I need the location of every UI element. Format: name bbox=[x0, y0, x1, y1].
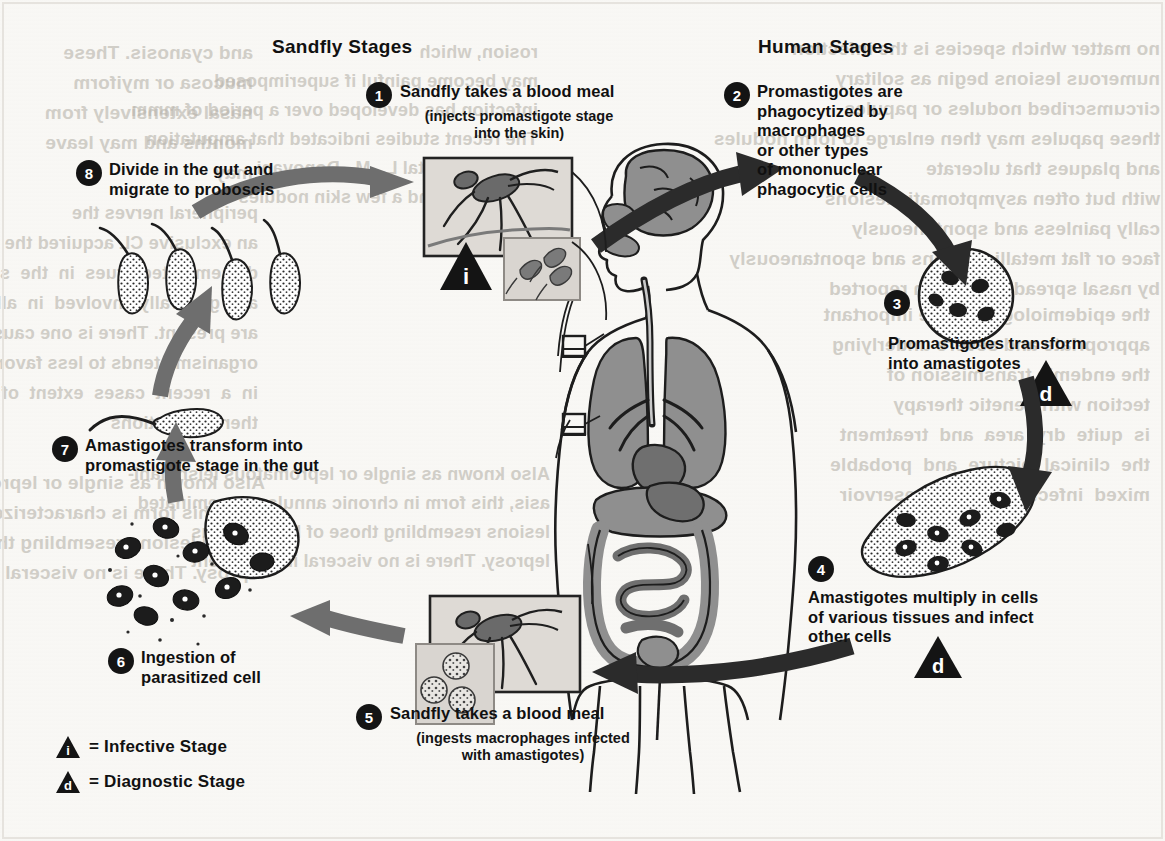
step-5-subtext: (ingests macrophages infected with amast… bbox=[380, 730, 666, 764]
showthrough-text-left-3: Also known as single or lepromatous leis… bbox=[5, 468, 265, 588]
figure-canvas: and cyanosis. These mucosa or myiform na… bbox=[0, 0, 1165, 841]
step-5-text: Sandfly takes a blood meal bbox=[390, 704, 604, 724]
stomach-organ bbox=[647, 483, 704, 522]
infective-stage-marker-1: i bbox=[440, 242, 492, 290]
promastigotes-group-step8 bbox=[100, 220, 300, 319]
step-3: 3 Promastigotes transform into amastigot… bbox=[888, 290, 1165, 373]
arrow-3-to-4 bbox=[1008, 378, 1052, 512]
heart-organ bbox=[633, 445, 685, 493]
showthrough-text-left-2: peripheral nerves the an exclusive CL ac… bbox=[8, 198, 258, 438]
body-to-bottom-connector bbox=[588, 544, 593, 604]
step1-pointer-curves bbox=[572, 172, 606, 320]
svg-text:d: d bbox=[64, 778, 72, 793]
svg-text:i: i bbox=[66, 743, 70, 758]
svg-text:i: i bbox=[463, 264, 469, 289]
arrow-4-to-5 bbox=[592, 646, 852, 694]
promastigote-inset-top bbox=[504, 238, 580, 300]
mouth-organ bbox=[601, 234, 639, 256]
legend: i = Infective Stage d = Diagnostic Stage bbox=[55, 735, 245, 805]
step-5: 5 Sandfly takes a blood meal (ingests ma… bbox=[356, 704, 686, 764]
human-stages-title: Human Stages bbox=[758, 36, 894, 58]
step-5-number: 5 bbox=[356, 704, 382, 730]
sandfly-bite-photo-bottom bbox=[430, 596, 580, 692]
step-2-text: Promastigotes are phagocytized by macrop… bbox=[757, 82, 903, 199]
brain-organ bbox=[624, 150, 713, 236]
lungs-organ bbox=[588, 338, 725, 488]
svg-text:d: d bbox=[932, 655, 944, 677]
step-6-number: 6 bbox=[108, 648, 134, 674]
parasitized-cell-step6 bbox=[105, 497, 299, 645]
bladder-organ bbox=[638, 637, 678, 668]
step-4-text: Amastigotes multiply in cells of various… bbox=[808, 588, 1038, 647]
human-body-figure bbox=[555, 144, 796, 794]
step-1-subtext: (injects promastigote stage into the ski… bbox=[388, 108, 650, 142]
step-7-number: 7 bbox=[52, 436, 78, 462]
step-1: 1 Sandfly takes a blood meal (injects pr… bbox=[366, 82, 666, 142]
step-8-text: Divide in the gut and migrate to probosc… bbox=[109, 160, 274, 199]
step-4: 4 Amastigotes multiply in cells of vario… bbox=[808, 556, 1108, 647]
step-1-text: Sandfly takes a blood meal bbox=[400, 82, 614, 102]
arrow-7-to-8 bbox=[160, 286, 212, 396]
showthrough-text-mid-2: Also known as single or lepromatous leis… bbox=[300, 460, 550, 576]
small-intestine-organ bbox=[618, 548, 686, 632]
infective-stage-triangle-icon: i bbox=[55, 735, 81, 759]
step-3-number: 3 bbox=[884, 290, 910, 316]
nasal-cavity-organ bbox=[603, 204, 636, 232]
legend-row-diagnostic: d = Diagnostic Stage bbox=[55, 770, 245, 794]
step-8-number: 8 bbox=[76, 160, 102, 186]
sandfly-bite-photo-top bbox=[424, 158, 572, 256]
step-2-number: 2 bbox=[724, 82, 750, 108]
promastigote-step7 bbox=[90, 409, 223, 437]
arrow-5-to-6 bbox=[290, 600, 404, 636]
step-6-text: Ingestion of parasitized cell bbox=[141, 648, 261, 687]
step-1-number: 1 bbox=[366, 82, 392, 108]
step-3-text: Promastigotes transform into amastigotes bbox=[888, 334, 1087, 373]
sandfly-stages-title: Sandfly Stages bbox=[272, 36, 412, 58]
large-intestine-organ bbox=[592, 530, 710, 667]
legend-row-infective: i = Infective Stage bbox=[55, 735, 245, 759]
step-7-text: Amastigotes transform into promastigote … bbox=[85, 436, 319, 475]
diagnostic-stage-triangle-icon: d bbox=[55, 770, 81, 794]
liver-organ bbox=[594, 488, 726, 537]
step-4-number: 4 bbox=[808, 556, 834, 582]
legend-label-diagnostic: = Diagnostic Stage bbox=[89, 772, 245, 792]
step-8: 8 Divide in the gut and migrate to probo… bbox=[76, 160, 326, 199]
step-7: 7 Amastigotes transform into promastigot… bbox=[52, 436, 372, 475]
skin-leader-lines bbox=[556, 282, 604, 458]
svg-text:d: d bbox=[1040, 382, 1053, 405]
legend-label-infective: = Infective Stage bbox=[89, 737, 227, 757]
step-6: 6 Ingestion of parasitized cell bbox=[108, 648, 328, 687]
step-2: 2 Promastigotes are phagocytized by macr… bbox=[724, 82, 974, 199]
trachea bbox=[644, 280, 652, 424]
